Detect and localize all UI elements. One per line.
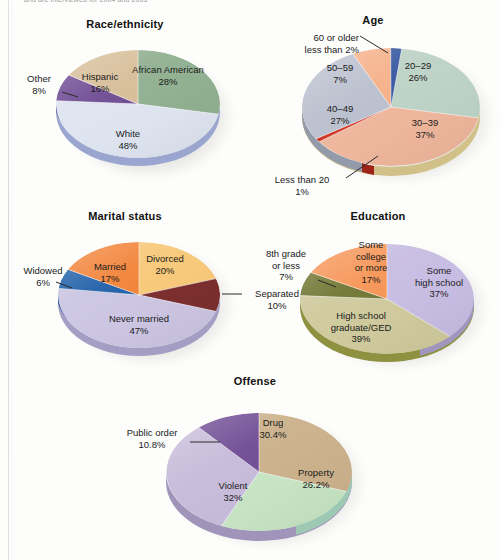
label-text: Public order <box>127 427 178 438</box>
slice-label-violent: Violent 32% <box>204 480 262 503</box>
label-text: Other <box>27 73 51 84</box>
label-text: High school <box>336 310 386 321</box>
chart-title-education: Education <box>323 210 433 222</box>
slice-label-property: Property 26.2% <box>280 467 352 490</box>
slice-label-age-40-49: 40–49 27% <box>310 103 370 126</box>
label-value: 7% <box>279 271 293 282</box>
slice-label-white: White 48% <box>98 128 158 151</box>
chart-offense: Offense <box>110 375 400 560</box>
label-text: 60 or older <box>314 32 359 43</box>
label-value: 16% <box>90 83 109 94</box>
label-value: 6% <box>36 277 50 288</box>
pie-marital <box>52 228 232 368</box>
label-value: 8% <box>32 85 46 96</box>
label-value: 48% <box>118 140 137 151</box>
label-value: 39% <box>351 333 370 344</box>
leader-line-8th-grade <box>318 276 344 292</box>
slice-label-8th-grade-or-less: 8th grade or less 7% <box>248 248 324 283</box>
label-text: Divorced <box>146 253 184 264</box>
chart-age: Age <box>248 14 502 204</box>
label-value: 28% <box>158 76 177 87</box>
label-text: 8th grade <box>266 248 306 259</box>
label-text: Some <box>427 265 452 276</box>
label-text: Hispanic <box>82 71 118 82</box>
pie-race <box>48 36 228 181</box>
slice-label-age-50-59: 50–59 7% <box>312 62 368 85</box>
label-value: 37% <box>415 129 434 140</box>
leader-line-public-order <box>190 437 224 447</box>
leader-line-age-60-plus <box>360 34 396 58</box>
label-value: 7% <box>333 74 347 85</box>
label-text: Never married <box>109 313 169 324</box>
label-value: 26% <box>408 72 427 83</box>
chart-education: Education <box>248 210 502 375</box>
label-text: or less <box>272 260 300 271</box>
slice-label-african-american: African American 28% <box>130 64 206 87</box>
label-text: Drug <box>263 417 284 428</box>
label-value: 17% <box>361 274 380 285</box>
slice-label-age-60-plus: 60 or older less than 2% <box>251 32 359 55</box>
label-value: 20% <box>155 265 174 276</box>
clipped-caption-line: and are interviewed for 2004 and 2005 <box>24 0 324 5</box>
label-value: 37% <box>429 288 448 299</box>
label-text: Married <box>94 261 126 272</box>
slice-label-hs-graduate: High school graduate/GED 39% <box>310 310 412 345</box>
slice-label-divorced: Divorced 20% <box>134 253 196 276</box>
slice-label-age-under-20: Less than 20 1% <box>258 174 346 197</box>
slice-label-public-order: Public order 10.8% <box>106 427 198 450</box>
slice-label-married: Married 17% <box>82 261 138 284</box>
label-text: 40–49 <box>327 103 353 114</box>
label-text: high school <box>415 277 463 288</box>
chart-race-ethnicity: Race/ethnicity <box>0 18 250 198</box>
label-text: African American <box>132 64 204 75</box>
chart-title-race: Race/ethnicity <box>45 18 205 30</box>
label-value: 17% <box>100 273 119 284</box>
slice-label-some-college: Some college or more 17% <box>340 239 402 285</box>
figure-page: and are interviewed for 2004 and 2005 Ra… <box>0 0 502 560</box>
chart-title-age: Age <box>328 14 418 26</box>
label-value: 32% <box>223 492 242 503</box>
label-text: 20–29 <box>405 60 431 71</box>
label-text: Less than 20 <box>275 174 329 185</box>
slice-label-age-30-39: 30–39 37% <box>395 117 455 140</box>
slice-label-never-married: Never married 47% <box>90 313 188 336</box>
slice-label-some-high-school: Some high school 37% <box>400 265 478 300</box>
leader-line-separated <box>222 290 244 298</box>
chart-marital-status: Marital status <box>0 210 250 375</box>
label-text: 50–59 <box>327 62 353 73</box>
label-text: graduate/GED <box>331 322 392 333</box>
chart-title-offense: Offense <box>205 375 305 387</box>
label-value: 30.4% <box>260 429 287 440</box>
slice-label-drug: Drug 30.4% <box>242 417 304 440</box>
label-value: 27% <box>330 115 349 126</box>
slice-label-other: Other 8% <box>14 73 64 96</box>
label-text: college <box>356 251 386 262</box>
label-text: White <box>116 128 140 139</box>
label-text: Widowed <box>23 265 62 276</box>
label-text: Violent <box>219 480 248 491</box>
chart-title-marital: Marital status <box>45 210 205 222</box>
label-text: 30–39 <box>412 117 438 128</box>
label-value: 47% <box>129 325 148 336</box>
label-text: or more <box>355 262 388 273</box>
label-value: 1% <box>295 186 309 197</box>
label-text: Some <box>359 239 384 250</box>
label-value: less than 2% <box>305 44 359 55</box>
label-text: Property <box>298 467 334 478</box>
leader-line-widowed <box>56 276 80 292</box>
slice-label-age-20-29: 20–29 26% <box>388 60 448 83</box>
label-value: 26.2% <box>303 479 330 490</box>
leader-line-age-under-20 <box>344 154 384 182</box>
leader-line-other <box>62 84 84 98</box>
label-value: 10.8% <box>139 439 166 450</box>
